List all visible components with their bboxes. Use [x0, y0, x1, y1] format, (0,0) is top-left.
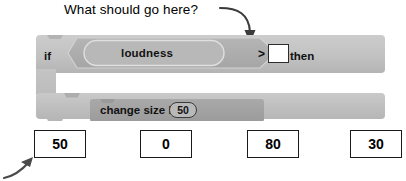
if-keyword-label: if — [44, 50, 51, 62]
answer-option-4[interactable]: 30 — [350, 130, 402, 158]
then-keyword-label: then — [290, 50, 314, 62]
boolean-condition-slot[interactable]: loudness > — [68, 38, 276, 68]
loudness-reporter-block[interactable]: loudness — [121, 47, 173, 59]
answer-choice-row: 50 0 80 30 — [0, 130, 406, 162]
greater-than-operator-label: > — [258, 47, 265, 61]
change-size-by-block[interactable]: change size by 50 — [89, 99, 265, 122]
callout-question-text: What should go here? — [64, 2, 198, 17]
empty-number-input[interactable] — [268, 44, 289, 63]
answer-option-1[interactable]: 50 — [34, 130, 86, 158]
change-size-value-input[interactable]: 50 — [169, 102, 197, 118]
answer-option-2[interactable]: 0 — [140, 130, 192, 158]
quiz-figure: What should go here? — [0, 0, 406, 181]
if-then-block[interactable]: if then loudness > change size by 50 — [36, 33, 385, 121]
change-size-value-text: 50 — [170, 103, 196, 117]
answer-option-3[interactable]: 80 — [247, 130, 299, 158]
